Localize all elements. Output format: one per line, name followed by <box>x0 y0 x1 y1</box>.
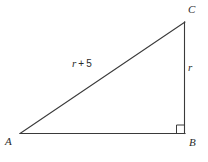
right-angle-marker-icon <box>177 125 185 133</box>
hypotenuse-variable: r <box>72 57 76 69</box>
triangle-drawing <box>0 0 208 162</box>
triangle-side-ac-hypotenuse <box>20 22 185 134</box>
vertex-label-c: C <box>188 4 196 15</box>
vertical-leg-variable: r <box>188 61 192 73</box>
hypotenuse-number: 5 <box>86 58 92 69</box>
side-label-hypotenuse: r+5 <box>72 58 92 69</box>
side-label-vertical-leg: r <box>188 62 192 73</box>
vertex-label-b: B <box>189 137 196 148</box>
vertex-label-a: A <box>5 136 12 147</box>
hypotenuse-operator: + <box>78 58 84 69</box>
triangle-figure: A B C r+5 r <box>0 0 208 162</box>
